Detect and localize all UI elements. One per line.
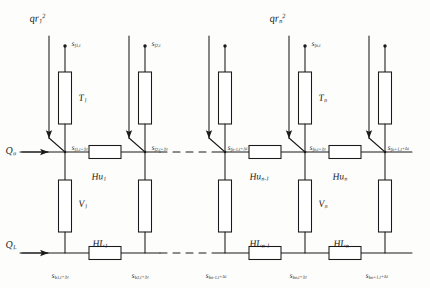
lower-resistor-5 [379,180,392,232]
lower-node-label-col2: sb2,t+∆t [131,271,148,281]
inflow-diagonal-5 [369,138,385,152]
lower-node-label-col5: sbn+1,t+∆t [365,270,388,280]
upper-resistor-5 [379,72,392,124]
upper-node-label-col5: sfn+1,t+∆t [387,143,409,153]
inflow-label-qr1: qr12 [29,13,46,25]
upper-rail-junction-3 [224,151,227,154]
lower-resistor-3 [219,180,232,232]
inflow-diagonal-2 [129,138,145,152]
source-label-col2: sf2,t [151,39,160,48]
lower-resistor-label-col1: V1 [78,199,87,210]
upper-resistor-label-col1: T1 [78,93,87,104]
upper-node-label-col2: sf2,t+∆t [151,143,167,153]
upper-resistor-4 [299,72,312,124]
upper-resistor-2 [139,72,152,124]
upper-rail-flow-label: Qu [5,145,16,157]
lower-node-label-col1: sb1,t+∆t [51,271,68,281]
inflow-label-qrn: qrn2 [269,13,286,25]
upper-rail-resistor-label-Hun-1: Hun-1 [249,172,269,184]
upper-rail-resistor-Hu1 [89,146,121,159]
upper-rail-junction-2 [144,151,147,154]
source-label-col4: sfn,t [311,39,320,48]
inflow-diagonal-1 [49,138,65,152]
lower-rail-resistor-label-HLn-1: HLn-1 [249,239,270,251]
lower-rail-resistor-label-HLn: HLn [333,239,349,251]
upper-node-label-col1: sf1,t+∆t [71,143,87,153]
upper-rail-resistor-Hun-1 [249,146,281,159]
upper-resistor-3 [219,72,232,124]
upper-rail-junction-5 [384,151,387,154]
lower-resistor-1 [59,180,72,232]
upper-rail-resistor-Hun [329,146,361,159]
lower-node-label-col4: sbn,t+∆t [289,271,306,281]
lower-rail-resistor-label-HL1: HL1 [92,239,108,251]
lower-resistor-2 [139,180,152,232]
source-label-col1: sf1,t [71,39,80,48]
inflow-diagonal-3 [209,138,225,152]
upper-rail-resistor-label-Hun: Hun [332,172,347,184]
lower-resistor-4 [299,180,312,232]
upper-resistor-1 [59,72,72,124]
upper-rail-junction-1 [64,151,67,154]
lower-node-label-col3: sbn-1,t+∆t [205,271,226,281]
network-diagram [0,0,430,288]
upper-rail-junction-4 [304,151,307,154]
upper-rail-resistor-label-Hu1: Hu1 [91,172,106,184]
lower-rail-flow-label: QL [5,239,16,251]
upper-resistor-label-col4: Tn [318,93,327,104]
lower-resistor-label-col4: Vn [318,199,327,210]
inflow-diagonal-4 [289,138,305,152]
upper-node-label-col4: sfn,t+∆t [309,143,325,153]
upper-node-label-col3: sfn-1,t+∆t [227,143,247,153]
